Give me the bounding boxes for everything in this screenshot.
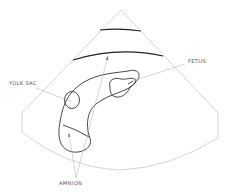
- amnion-arrowhead-left: [68, 133, 71, 137]
- fetus-detail: [128, 81, 133, 84]
- fetus-label: FETUS: [188, 58, 206, 64]
- amnion-label: AMNION: [59, 180, 82, 186]
- upper-echo-arc-2: [73, 52, 163, 60]
- ultrasound-diagram: YOLK SAC FETUS AMNION: [0, 0, 226, 192]
- yolk-sac-leader: [36, 88, 72, 102]
- amnion-arrowhead-right: [106, 56, 109, 60]
- amnion-membrane: [63, 125, 89, 137]
- gestational-sac: [59, 70, 139, 152]
- yolk-sac-label: YOLK SAC: [8, 80, 37, 86]
- amnion-leader-right: [76, 56, 108, 178]
- fetus-leader: [133, 64, 185, 81]
- upper-echo-arc-1: [100, 29, 141, 31]
- amnion-leader-left: [69, 133, 76, 178]
- scan-sector-outline: [22, 10, 218, 170]
